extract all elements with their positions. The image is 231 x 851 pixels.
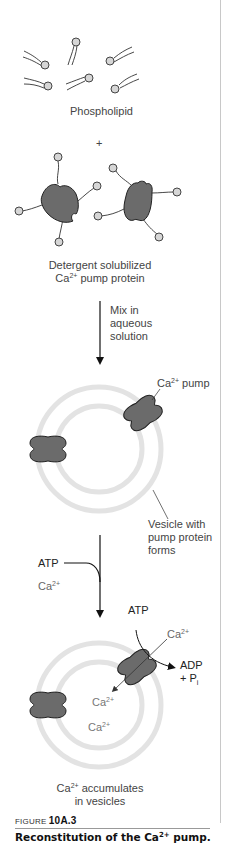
atp-pump-label: ATP	[128, 604, 149, 617]
pump-protein-left-icon	[30, 692, 66, 718]
accumulates-label: Ca2+ accumulates in vesicles	[40, 782, 160, 808]
caption-divider	[15, 828, 210, 829]
pump-protein-left-icon	[30, 436, 66, 462]
atp-input-curve-icon	[64, 563, 100, 582]
atp-input-label: ATP	[38, 557, 59, 570]
detergent-protein-2-icon	[94, 164, 181, 241]
vesicle-1-icon	[30, 387, 168, 519]
plus-sign: +	[96, 137, 102, 150]
adp-pi-label: ADP + Pi	[180, 659, 203, 689]
calcium-inside-label-1: Ca2+	[92, 696, 114, 709]
phospholipid-label: Phospholipid	[70, 105, 133, 118]
detergent-protein-1-icon	[15, 153, 101, 246]
calcium-input-label: Ca2+	[38, 580, 60, 593]
figure-diagram	[0, 0, 231, 851]
detergent-label: Detergent solubilized Ca2+ pump protein	[40, 259, 160, 285]
figure-number: FIGURE 10A.3	[15, 815, 77, 826]
pump-protein-active-icon	[115, 646, 159, 688]
ca-pump-label: Ca2+ pump	[157, 377, 210, 390]
mix-label: Mix in aqueous solution	[110, 304, 152, 343]
calcium-pump-label: Ca2+	[167, 628, 189, 641]
calcium-inside-label-2: Ca2+	[88, 721, 110, 734]
phospholipids-icon	[23, 38, 139, 93]
figure-caption: Reconstitution of the Ca2+ pump.	[15, 831, 211, 843]
vesicle-label: Vesicle with pump protein forms	[148, 518, 212, 557]
